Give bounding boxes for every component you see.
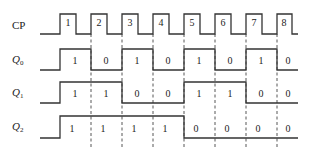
state-value: 1 bbox=[132, 123, 137, 134]
state-value: 1 bbox=[104, 88, 109, 99]
signal-label-cp: CP bbox=[12, 19, 25, 31]
q1-values: 1 1 0 0 1 1 0 0 bbox=[73, 88, 291, 99]
state-value: 0 bbox=[225, 123, 230, 134]
state-value: 1 bbox=[228, 88, 233, 99]
state-value: 1 bbox=[73, 55, 78, 66]
state-value: 1 bbox=[135, 55, 140, 66]
pulse-label: 3 bbox=[128, 17, 133, 28]
state-value: 0 bbox=[104, 55, 109, 66]
state-value: 0 bbox=[135, 88, 140, 99]
state-value: 1 bbox=[70, 123, 75, 134]
state-value: 0 bbox=[166, 88, 171, 99]
state-value: 1 bbox=[259, 55, 264, 66]
pulse-label: 8 bbox=[282, 17, 287, 28]
state-value: 0 bbox=[259, 88, 264, 99]
state-value: 0 bbox=[286, 88, 291, 99]
pulse-label: 2 bbox=[97, 17, 102, 28]
state-value: 0 bbox=[194, 123, 199, 134]
pulse-label: 5 bbox=[190, 17, 195, 28]
state-value: 0 bbox=[228, 55, 233, 66]
state-value: 0 bbox=[286, 55, 291, 66]
signal-label-q0: Q0 bbox=[12, 53, 24, 67]
state-value: 0 bbox=[256, 123, 261, 134]
cp-pulse-labels: 1 2 3 4 5 6 7 8 bbox=[66, 17, 287, 28]
state-value: 0 bbox=[286, 123, 291, 134]
state-value: 1 bbox=[101, 123, 106, 134]
timing-diagram: CP Q0 Q1 Q2 1 2 3 4 5 6 7 8 1 0 1 0 1 0 … bbox=[0, 0, 316, 153]
pulse-label: 7 bbox=[252, 17, 257, 28]
pulse-label: 4 bbox=[159, 17, 164, 28]
pulse-label: 1 bbox=[66, 17, 71, 28]
state-value: 1 bbox=[73, 88, 78, 99]
state-value: 0 bbox=[166, 55, 171, 66]
state-value: 1 bbox=[163, 123, 168, 134]
state-value: 1 bbox=[197, 55, 202, 66]
q2-values: 1 1 1 1 0 0 0 0 bbox=[70, 123, 291, 134]
q0-values: 1 0 1 0 1 0 1 0 bbox=[73, 55, 291, 66]
signal-label-q2: Q2 bbox=[12, 120, 24, 134]
signal-label-q1: Q1 bbox=[12, 86, 24, 100]
pulse-label: 6 bbox=[221, 17, 226, 28]
state-value: 1 bbox=[197, 88, 202, 99]
cp-waveform bbox=[40, 14, 298, 34]
